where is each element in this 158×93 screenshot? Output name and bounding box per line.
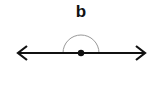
vertex-point [78,50,84,56]
straight-angle-diagram [0,0,158,93]
